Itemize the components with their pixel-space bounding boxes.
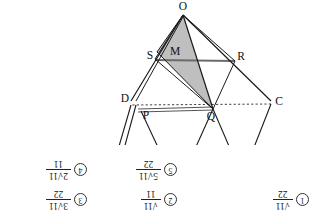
answer-choice-3[interactable]: 3 3√11 22 — [46, 188, 87, 211]
vertex-label-O: O — [179, 0, 187, 12]
choice-numerator-3: 3√11 — [46, 199, 71, 211]
segment-qp-lower — [138, 107, 213, 109]
vertex-label-R: R — [237, 50, 245, 62]
answer-choice-4[interactable]: 5 5√11 22 — [136, 158, 177, 181]
choice-fraction-3: 3√11 22 — [46, 188, 71, 211]
choice-denominator-4: 22 — [141, 158, 157, 169]
choice-number-3: 3 — [74, 193, 87, 206]
choice-denominator-2: 11 — [143, 188, 158, 199]
geometry-figure-svg: C Q P D R M S O — [0, 0, 327, 145]
answer-choice-5[interactable]: 4 2√11 11 — [46, 158, 87, 181]
choice-number-2: 2 — [164, 193, 177, 206]
choice-numerator-2: √11 — [141, 199, 161, 211]
vertex-label-P: P — [143, 109, 149, 121]
vertex-label-S: S — [147, 49, 153, 61]
edge-c-up — [249, 104, 271, 145]
choice-numerator-4: 5√11 — [136, 169, 161, 181]
vertex-label-Q: Q — [207, 110, 216, 122]
shaded-triangle — [157, 15, 213, 109]
vertex-label-C: C — [275, 95, 283, 107]
edge-q-r — [213, 61, 235, 109]
geometry-figure: C Q P D R M S O Solid geometry figure: p… — [0, 0, 327, 145]
choice-denominator-5: 11 — [51, 158, 66, 169]
choice-fraction-2: √11 11 — [141, 188, 161, 211]
choice-number-4: 5 — [164, 163, 177, 176]
vertex-label-D: D — [121, 92, 129, 104]
choice-fraction-4: 5√11 22 — [136, 158, 161, 181]
choice-number-5: 4 — [74, 163, 87, 176]
choice-fraction-5: 2√11 11 — [46, 158, 71, 181]
choice-numerator-1: √11 — [273, 199, 293, 211]
vertex-label-M: M — [170, 45, 180, 57]
answer-choice-2[interactable]: 2 √11 11 — [141, 188, 177, 211]
choice-number-1: 1 — [296, 193, 309, 206]
hidden-edge-cd — [131, 104, 271, 105]
choice-numerator-5: 2√11 — [46, 169, 71, 181]
scanned-page: C Q P D R M S O Solid geometry figure: p… — [0, 0, 327, 215]
edge-d-up-a — [115, 105, 131, 145]
edge-d-up-b — [121, 105, 136, 145]
segment-rs — [155, 60, 235, 61]
segment-qp-upper — [138, 110, 213, 112]
answer-choice-1[interactable]: 1 √11 22 — [273, 188, 309, 211]
edge-q-up-left — [213, 109, 235, 145]
choice-denominator-1: 22 — [275, 188, 291, 199]
choice-denominator-3: 22 — [51, 188, 67, 199]
choice-fraction-1: √11 22 — [273, 188, 293, 211]
